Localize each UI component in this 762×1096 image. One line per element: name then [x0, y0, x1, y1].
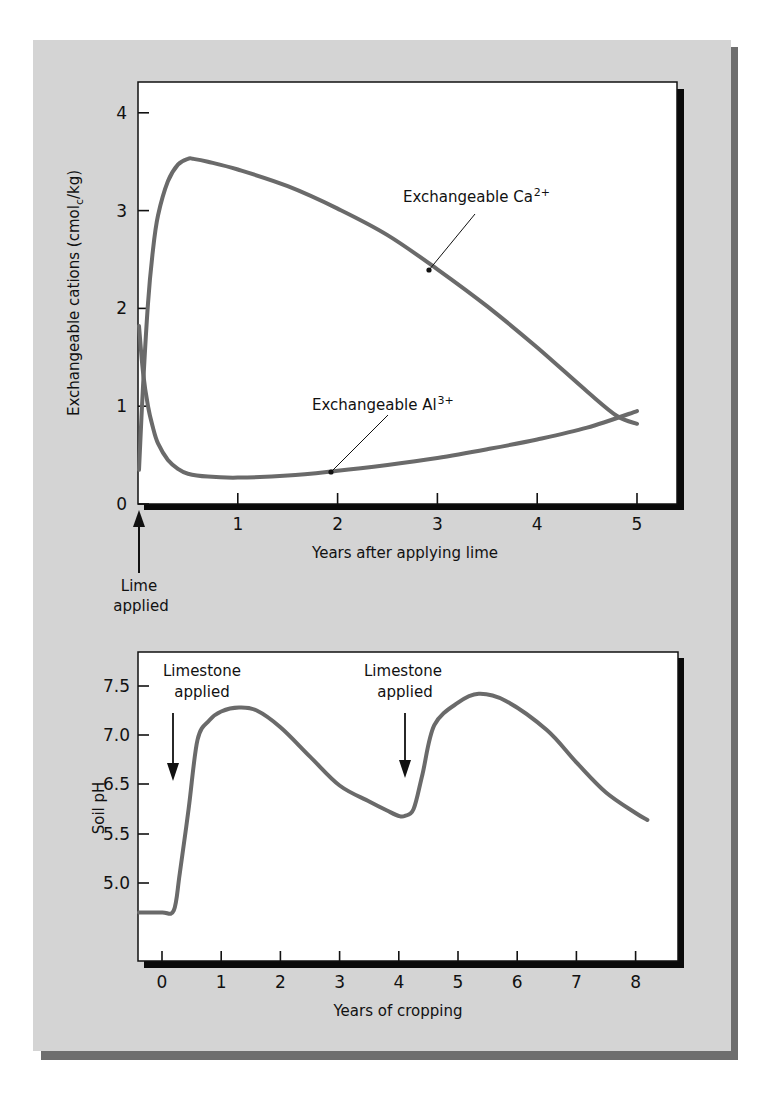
soil-ph-chart: 7.57.06.55.55.0 012345678 Limestone appl…: [90, 652, 684, 1020]
x-tick-label: 7: [571, 972, 582, 992]
x-tick-label: 6: [512, 972, 523, 992]
x-tick-label: 1: [232, 514, 243, 534]
ca-point-marker: [426, 267, 431, 272]
x-axis-title: Years after applying lime: [311, 544, 498, 562]
y-tick-label: 4: [116, 103, 127, 123]
x-axis-title: Years of cropping: [332, 1002, 462, 1020]
limestone-label-1-line2: applied: [174, 683, 229, 701]
plot-frame-shadow: [677, 89, 684, 510]
plot-area: [138, 82, 677, 504]
arrow-up-icon: [133, 510, 145, 527]
limestone-label-1-line1: Limestone: [163, 662, 241, 680]
lime-applied-label-2: applied: [113, 597, 168, 615]
x-tick-label: 2: [332, 514, 343, 534]
al-point-marker: [328, 469, 333, 474]
exchangeable-cations-chart: 01234 12345 Exchangeable Ca2+ Exchangeab…: [65, 82, 684, 615]
limestone-label-2-line1: Limestone: [364, 662, 442, 680]
ca-label: Exchangeable Ca2+: [403, 186, 550, 206]
plot-frame-shadow: [678, 658, 684, 968]
al-label: Exchangeable Al3+: [312, 394, 454, 414]
x-tick-label: 2: [275, 972, 286, 992]
x-tick-label: 4: [393, 972, 404, 992]
y-axis-title: Exchangeable cations (cmolc/kg): [65, 170, 86, 416]
y-tick-label: 7.0: [103, 725, 130, 745]
x-tick-label: 4: [532, 514, 543, 534]
figure: 01234 12345 Exchangeable Ca2+ Exchangeab…: [0, 0, 762, 1096]
x-tick-label: 8: [630, 972, 641, 992]
x-tick-label: 1: [216, 972, 227, 992]
y-tick-label: 3: [116, 201, 127, 221]
lime-applied-label-1: Lime: [121, 577, 157, 595]
y-tick-label: 5.0: [103, 873, 130, 893]
x-tick-label: 0: [157, 972, 168, 992]
y-tick-label: 7.5: [103, 676, 130, 696]
plot-frame-shadow: [144, 961, 684, 968]
y-tick-label: 0: [116, 494, 127, 514]
y-tick-label: 2: [116, 298, 127, 318]
x-tick-label: 3: [334, 972, 345, 992]
x-tick-label: 5: [632, 514, 643, 534]
y-tick-label: 1: [116, 396, 127, 416]
limestone-label-2-line2: applied: [377, 683, 432, 701]
x-tick-label: 5: [453, 972, 464, 992]
y-axis-title: Soil pH: [90, 782, 108, 835]
x-tick-label: 3: [432, 514, 443, 534]
